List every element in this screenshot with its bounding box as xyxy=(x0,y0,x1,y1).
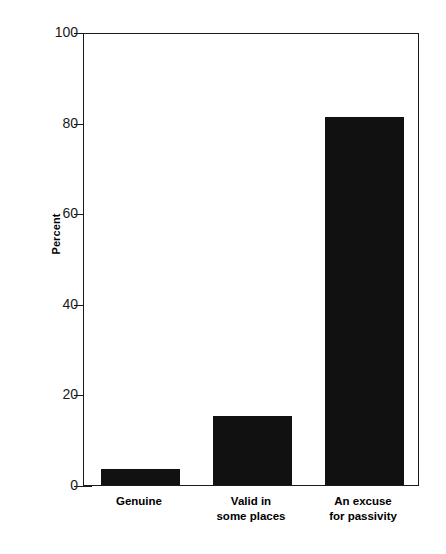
y-tick-label: 20 xyxy=(62,386,78,402)
y-tick-label: 0 xyxy=(70,477,78,493)
x-axis-label: Valid in some places xyxy=(195,494,307,524)
plot-area xyxy=(83,33,419,486)
bar xyxy=(101,469,180,485)
y-tick-label: 100 xyxy=(55,24,78,40)
y-tick-mark xyxy=(74,486,92,487)
x-axis-label: Genuine xyxy=(83,494,195,509)
y-tick-label: 80 xyxy=(62,115,78,131)
y-tick-label: 60 xyxy=(62,205,78,221)
bar xyxy=(213,416,292,485)
y-tick-label: 40 xyxy=(62,296,78,312)
x-axis-label: An excuse for passivity xyxy=(307,494,419,524)
y-axis-title: Percent xyxy=(50,194,62,274)
bar-chart: Percent 100806040200 GenuineValid in som… xyxy=(0,0,446,554)
bar xyxy=(325,117,404,485)
